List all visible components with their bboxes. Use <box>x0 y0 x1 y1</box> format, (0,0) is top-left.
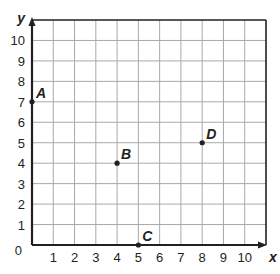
point-a-label: A <box>35 85 46 101</box>
x-axis-ticks: 12345678910 <box>50 250 252 265</box>
y-tick-label: 10 <box>11 33 25 48</box>
plot-frame <box>32 20 266 245</box>
y-tick-label: 2 <box>18 197 25 212</box>
x-tick-label: 8 <box>199 250 206 265</box>
y-axis-label: y <box>16 10 26 26</box>
point-c-marker <box>136 242 141 247</box>
origin-label: 0 <box>15 243 22 258</box>
y-axis-arrow-icon <box>29 17 36 26</box>
x-tick-label: 5 <box>135 250 142 265</box>
point-c-label: C <box>142 228 153 244</box>
point-b-marker <box>114 161 119 166</box>
y-tick-label: 3 <box>18 177 25 192</box>
x-tick-label: 2 <box>71 250 78 265</box>
grid-lines <box>32 20 266 245</box>
y-tick-label: 7 <box>18 95 25 110</box>
y-tick-label: 8 <box>18 74 25 89</box>
x-tick-label: 10 <box>237 250 251 265</box>
y-axis-ticks: 12345678910 <box>11 33 25 232</box>
y-tick-label: 4 <box>18 156 25 171</box>
coordinate-plane: 12345678910 12345678910 0 x y ABCD <box>0 0 280 274</box>
axes <box>29 17 268 249</box>
y-tick-label: 9 <box>18 54 25 69</box>
x-axis-label: x <box>268 249 278 265</box>
point-b-label: B <box>121 146 131 162</box>
y-tick-label: 6 <box>18 115 25 130</box>
point-a-marker <box>29 99 34 104</box>
point-d-label: D <box>206 126 216 142</box>
y-tick-label: 5 <box>18 136 25 151</box>
point-d-marker <box>200 140 205 145</box>
x-tick-label: 7 <box>177 250 184 265</box>
x-tick-label: 3 <box>92 250 99 265</box>
x-tick-label: 6 <box>156 250 163 265</box>
y-tick-label: 1 <box>18 218 25 233</box>
x-tick-label: 9 <box>220 250 227 265</box>
x-tick-label: 1 <box>50 250 57 265</box>
x-tick-label: 4 <box>113 250 120 265</box>
data-points: ABCD <box>29 85 216 248</box>
